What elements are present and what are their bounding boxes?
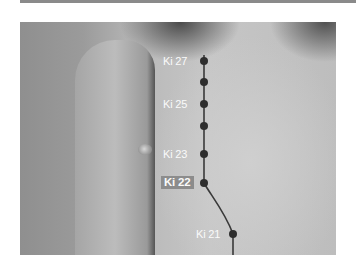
label-ki23: Ki 23 bbox=[163, 148, 187, 161]
point-ki24 bbox=[200, 122, 208, 130]
label-ki27: Ki 27 bbox=[163, 55, 187, 68]
point-ki21 bbox=[229, 230, 237, 238]
top-rule bbox=[20, 0, 356, 3]
point-ki25 bbox=[200, 100, 208, 108]
point-ki23 bbox=[200, 150, 208, 158]
point-ki22 bbox=[200, 179, 208, 187]
label-ki22-highlighted: Ki 22 bbox=[161, 176, 194, 189]
chest-photo: Ki 27 Ki 25 Ki 23 Ki 22 Ki 21 bbox=[20, 22, 336, 255]
label-ki21: Ki 21 bbox=[196, 228, 220, 241]
point-ki26 bbox=[200, 78, 208, 86]
label-ki25: Ki 25 bbox=[163, 98, 187, 111]
point-ki27 bbox=[200, 57, 208, 65]
